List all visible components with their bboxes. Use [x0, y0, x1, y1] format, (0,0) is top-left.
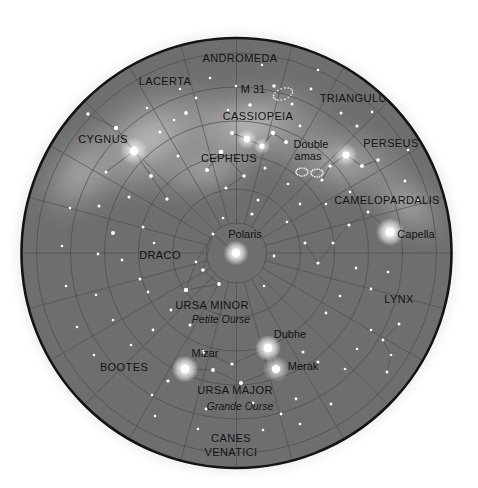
star: [217, 282, 221, 286]
star: [261, 64, 263, 66]
star: [98, 205, 101, 208]
star: [105, 171, 108, 174]
dso-dot: [274, 92, 276, 94]
star: [262, 429, 265, 432]
star: [299, 423, 302, 426]
star: [130, 147, 139, 156]
dso-dot: [314, 176, 316, 178]
star: [284, 140, 288, 144]
star: [177, 155, 180, 158]
star: [151, 394, 154, 397]
dso-dot: [303, 175, 305, 177]
star: [248, 103, 252, 107]
star: [61, 245, 64, 248]
dso-dot: [316, 168, 318, 170]
star: [205, 168, 209, 172]
dso-dot: [299, 175, 301, 177]
star: [299, 125, 302, 128]
star: [86, 112, 89, 115]
star: [332, 242, 335, 245]
dso-dot: [292, 90, 294, 92]
star: [147, 291, 150, 294]
star: [112, 319, 115, 322]
constellation-label-lynx: LYNX: [384, 293, 414, 305]
dso-dot: [312, 175, 314, 177]
star: [264, 167, 267, 170]
dso-dot: [318, 168, 320, 170]
star: [398, 323, 401, 326]
star-label-capella: Capella: [397, 228, 435, 240]
constellation-label-ursa-minor: URSA MINOR: [175, 299, 249, 311]
constellation-label-lacerta: LACERTA: [139, 75, 192, 87]
star: [355, 267, 358, 270]
dso-dot: [305, 168, 307, 170]
star: [235, 85, 238, 88]
dso-dot: [284, 87, 286, 89]
dso-dot: [295, 171, 297, 173]
constellation-label-camelopardalis: CAMELOPARDALIS: [334, 194, 440, 206]
named-star-merak: [272, 365, 280, 373]
star: [166, 379, 169, 382]
star: [179, 88, 181, 90]
star: [371, 111, 374, 114]
star: [230, 131, 234, 135]
star: [114, 126, 118, 130]
dso-label-double: Double: [294, 138, 329, 150]
star: [370, 288, 373, 291]
dso-dot: [316, 176, 318, 178]
star: [320, 178, 323, 181]
dso-dot: [274, 98, 276, 100]
star: [317, 69, 320, 72]
dso-label-amas: amas: [295, 150, 322, 162]
dso-dot: [299, 167, 301, 169]
named-star-capella: [386, 228, 394, 236]
star: [310, 88, 313, 91]
star: [273, 255, 276, 258]
star: [121, 259, 124, 262]
star: [195, 261, 198, 264]
star: [222, 217, 225, 220]
star: [387, 271, 390, 274]
star: [201, 268, 205, 272]
dso-dot: [307, 173, 309, 175]
star-chart: ANDROMEDALACERTATRIANGULUMCASSIOPEIACYGN…: [0, 0, 478, 488]
star: [340, 112, 343, 115]
star: [230, 362, 233, 365]
star: [170, 309, 173, 312]
constellation-label-canes: CANES: [211, 432, 251, 444]
constellation-label-cassiopeia: CASSIOPEIA: [223, 110, 294, 122]
constellation-label-venatici: VENATICI: [204, 446, 257, 458]
named-star-mizar: [181, 365, 189, 373]
constellation-label-ursa-major: URSA MAJOR: [197, 384, 273, 396]
star: [97, 253, 100, 256]
dso-dot: [277, 99, 279, 101]
dso-dot: [280, 88, 282, 90]
star: [128, 196, 131, 199]
dso-dot: [287, 87, 289, 89]
star: [263, 285, 266, 288]
star: [347, 223, 350, 226]
star: [158, 130, 161, 133]
dso-dot: [280, 99, 282, 101]
dso-dot: [273, 94, 275, 96]
star: [173, 119, 176, 122]
star: [328, 164, 331, 167]
star: [325, 312, 328, 315]
star: [242, 174, 246, 178]
star: [184, 111, 188, 115]
star: [146, 107, 148, 109]
dso-dot: [297, 174, 299, 176]
constellation-label-perseus: PERSEUS: [363, 137, 418, 149]
dso-dot: [284, 98, 286, 100]
star: [184, 288, 188, 292]
dso-dot: [301, 167, 303, 169]
star: [316, 261, 319, 264]
dso-dot: [311, 174, 313, 176]
star: [304, 242, 307, 245]
constellation-label-cygnus: CYGNUS: [78, 133, 127, 145]
star: [287, 183, 290, 186]
star-label-mizar: Mizar: [192, 347, 219, 359]
dso-dot: [310, 172, 312, 174]
star: [149, 174, 153, 178]
star: [111, 231, 115, 235]
